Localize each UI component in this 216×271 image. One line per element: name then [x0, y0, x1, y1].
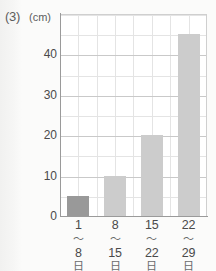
y-tick-10: 10	[3, 169, 57, 183]
y-axis-tick-labels: 010203040	[0, 14, 57, 216]
chart-page: (3) (cm) 010203040 1〜8日8〜15日15〜22日22〜29日	[0, 0, 216, 271]
x-category-2: 8〜15日	[97, 219, 134, 271]
x-category-day-unit: 日	[110, 261, 121, 271]
x-category-end: 22	[145, 247, 159, 260]
bars-group	[60, 15, 206, 216]
y-tick-20: 20	[3, 128, 57, 142]
x-category-3: 15〜22日	[134, 219, 171, 271]
x-category-1: 1〜8日	[60, 219, 97, 271]
x-category-4: 22〜29日	[170, 219, 207, 271]
x-category-separator: 〜	[183, 234, 194, 245]
x-category-day-unit: 日	[73, 261, 84, 271]
x-category-separator: 〜	[110, 234, 121, 245]
y-tick-40: 40	[3, 47, 57, 61]
x-category-end: 29	[182, 247, 196, 260]
x-category-end: 8	[75, 247, 82, 260]
plot-area	[60, 14, 207, 216]
x-category-start: 22	[182, 219, 196, 232]
x-axis-category-labels: 1〜8日8〜15日15〜22日22〜29日	[60, 219, 207, 271]
y-tick-30: 30	[3, 88, 57, 102]
bar-3	[141, 135, 163, 216]
x-category-start: 1	[75, 219, 82, 232]
x-category-start: 15	[145, 219, 159, 232]
x-category-start: 8	[112, 219, 119, 232]
x-axis-line	[60, 216, 208, 217]
bar-2	[104, 176, 126, 216]
x-category-end: 15	[108, 247, 122, 260]
y-tick-0: 0	[3, 209, 57, 223]
bar-4	[178, 34, 200, 216]
bar-1	[67, 196, 89, 216]
x-category-day-unit: 日	[183, 261, 194, 271]
x-category-day-unit: 日	[146, 261, 157, 271]
y-axis-line	[60, 13, 61, 217]
x-category-separator: 〜	[146, 234, 157, 245]
x-category-separator: 〜	[73, 234, 84, 245]
